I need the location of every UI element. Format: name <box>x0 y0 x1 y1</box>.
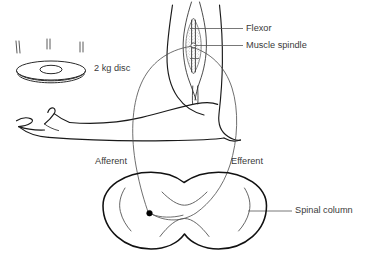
synapse-dot-icon <box>147 210 153 216</box>
label-flexor: Flexor <box>246 23 272 33</box>
arm-group <box>17 103 225 141</box>
motion-lines-icon <box>16 39 83 53</box>
label-spinal-column: Spinal column <box>295 205 353 215</box>
label-afferent: Afferent <box>95 156 127 166</box>
disc-group <box>16 39 86 83</box>
upper-arm-group <box>167 5 241 141</box>
label-disc: 2 kg disc <box>94 63 131 73</box>
label-efferent: Efferent <box>231 156 263 166</box>
muscle-spindle-icon <box>186 18 201 74</box>
nerve-pathways <box>133 47 237 220</box>
stretch-reflex-diagram: 2 kg disc Flexor Muscle spindle Afferent… <box>0 0 369 270</box>
label-muscle-spindle: Muscle spindle <box>246 40 307 50</box>
diagram-canvas: 2 kg disc Flexor Muscle spindle Afferent… <box>0 0 369 270</box>
disc-icon <box>17 61 86 83</box>
leader-lines <box>190 29 292 212</box>
spinal-cord-icon <box>103 172 267 249</box>
